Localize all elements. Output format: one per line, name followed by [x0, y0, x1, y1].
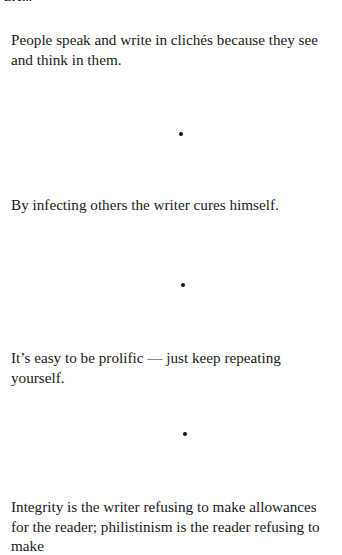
cutoff-header-text: Ere... — [4, 0, 32, 3]
separator-dot-icon — [179, 132, 183, 136]
aphorism-paragraph: People speak and write in clichés becaus… — [11, 30, 337, 69]
aphorism-paragraph: Integrity is the writer refusing to make… — [11, 497, 337, 555]
aphorism-paragraph: It’s easy to be prolific — just keep rep… — [11, 348, 337, 387]
aphorism-paragraph: By infecting others the writer cures him… — [11, 195, 337, 215]
separator-dot-icon — [183, 432, 187, 436]
separator-dot-icon — [181, 283, 185, 287]
